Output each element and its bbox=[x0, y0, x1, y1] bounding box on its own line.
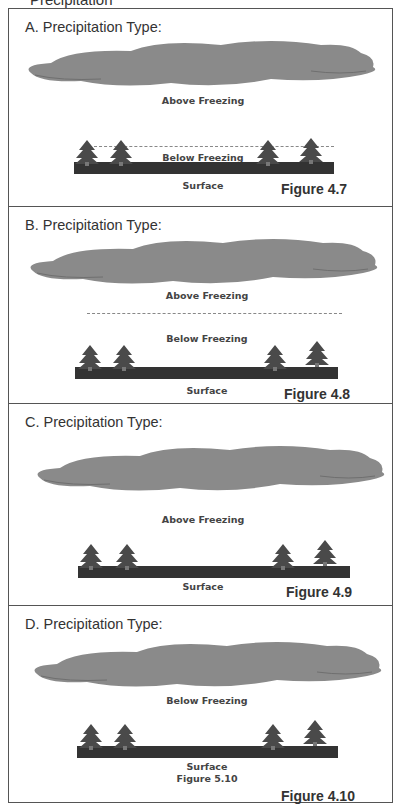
tree-icon bbox=[115, 544, 139, 570]
tree-icon bbox=[271, 544, 295, 570]
panel-b: B. Precipitation Type: Above Freezing Be… bbox=[8, 206, 393, 404]
label-below-freezing: Below Freezing bbox=[107, 695, 307, 706]
panel-title: D. Precipitation Type: bbox=[25, 616, 163, 632]
label-above-freezing: Above Freezing bbox=[103, 95, 303, 106]
label-surface: Surface bbox=[103, 180, 303, 191]
label-figure-5-10: Figure 5.10 bbox=[107, 773, 307, 784]
cloud-icon bbox=[21, 31, 381, 91]
tree-icon bbox=[78, 345, 102, 371]
tree-icon bbox=[112, 345, 136, 371]
tree-icon bbox=[299, 138, 323, 164]
figure-label: Figure 4.9 bbox=[286, 584, 352, 600]
panel-c: C. Precipitation Type: Above Freezing Su… bbox=[8, 403, 393, 606]
cloud-icon bbox=[27, 632, 387, 692]
label-above-freezing: Above Freezing bbox=[103, 514, 303, 525]
figure-label: Figure 4.8 bbox=[284, 386, 350, 402]
tree-icon bbox=[256, 140, 280, 166]
figure-label: Figure 4.10 bbox=[281, 788, 355, 804]
cloud-icon bbox=[25, 436, 395, 496]
tree-icon bbox=[75, 140, 99, 166]
tree-icon bbox=[109, 140, 133, 166]
header-cut-text: Precipitation bbox=[30, 0, 113, 8]
tree-icon bbox=[313, 540, 337, 566]
tree-icon bbox=[79, 724, 103, 750]
cloud-icon bbox=[23, 229, 383, 289]
label-below-freezing: Below Freezing bbox=[107, 333, 307, 344]
tree-icon bbox=[305, 341, 329, 367]
panel-title: C. Precipitation Type: bbox=[25, 414, 163, 430]
tree-icon bbox=[303, 720, 327, 746]
panel-a: A. Precipitation Type: Above Freezing Be… bbox=[8, 8, 393, 207]
tree-icon bbox=[113, 724, 137, 750]
tree-icon bbox=[263, 345, 287, 371]
tree-icon bbox=[261, 724, 285, 750]
label-above-freezing: Above Freezing bbox=[107, 290, 307, 301]
panel-d: D. Precipitation Type: Below Freezing Su… bbox=[8, 605, 393, 803]
freezing-line bbox=[87, 313, 342, 314]
tree-icon bbox=[79, 544, 103, 570]
figure-label: Figure 4.7 bbox=[281, 181, 347, 197]
label-surface: Surface bbox=[103, 581, 303, 592]
label-surface: Surface bbox=[107, 761, 307, 772]
label-surface: Surface bbox=[107, 385, 307, 396]
